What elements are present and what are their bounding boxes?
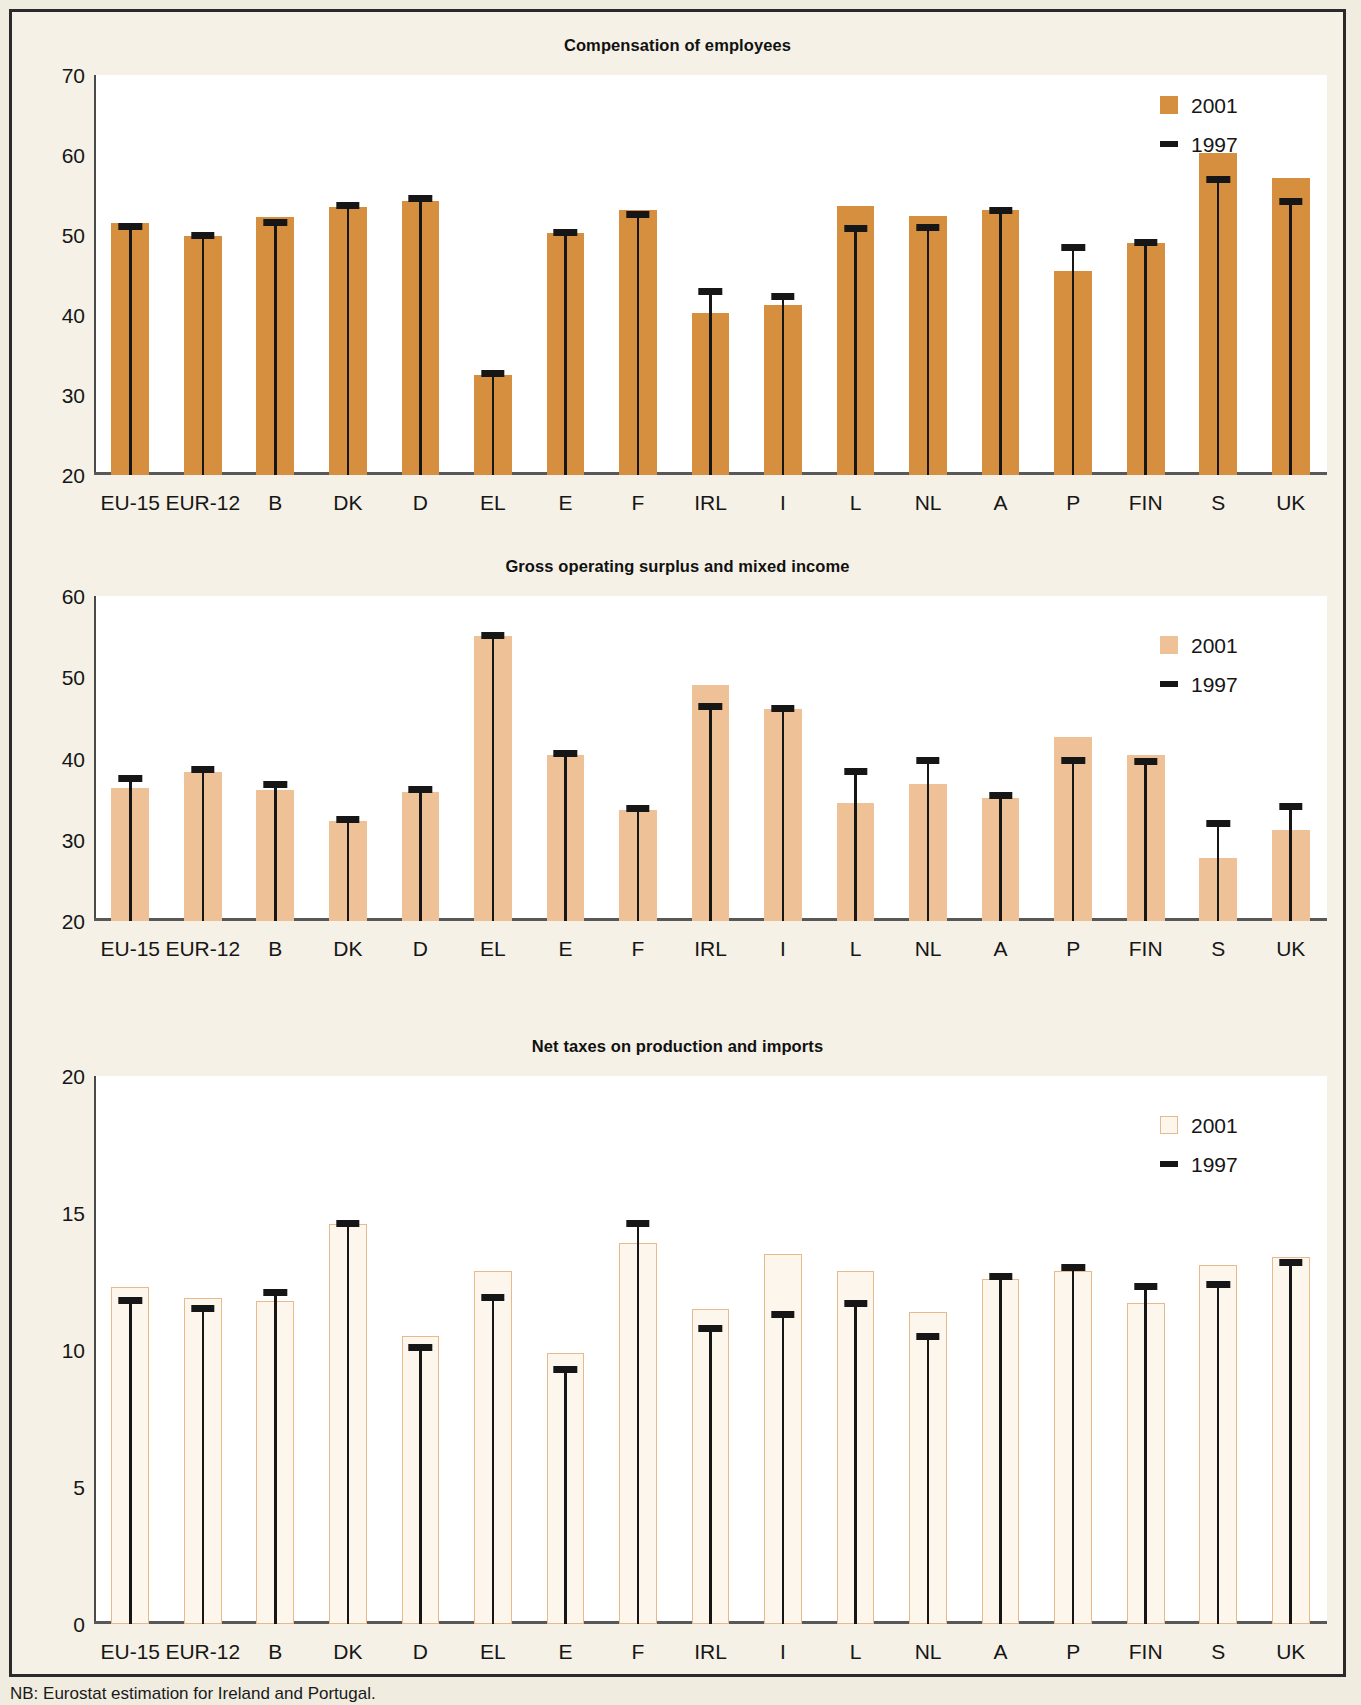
dash-marker-icon xyxy=(1160,681,1178,687)
x-axis-tick-label: L xyxy=(850,492,862,513)
bar-group xyxy=(329,596,367,921)
plot-area: 05101520 xyxy=(94,1076,1327,1624)
x-axis-tick-label: DK xyxy=(333,492,362,513)
legend-label-1997: 1997 xyxy=(1191,134,1238,155)
marker-1997 xyxy=(191,232,214,239)
bar-group xyxy=(547,75,585,475)
x-axis-tick-label: UK xyxy=(1276,938,1305,959)
x-axis-tick-label: F xyxy=(632,492,645,513)
marker-stem-1997 xyxy=(927,228,930,475)
x-axis-tick-label: S xyxy=(1211,1641,1225,1662)
marker-stem-1997 xyxy=(492,373,495,475)
figure-frame: Compensation of employees 203040506070 E… xyxy=(9,9,1346,1677)
marker-stem-1997 xyxy=(419,1347,422,1624)
x-axis-tick-label: P xyxy=(1066,938,1080,959)
marker-1997 xyxy=(771,293,794,300)
marker-stem-1997 xyxy=(854,772,857,922)
marker-stem-1997 xyxy=(637,214,640,475)
marker-1997 xyxy=(1061,244,1084,251)
x-axis-tick-label: EL xyxy=(480,492,506,513)
bar-group xyxy=(111,1076,149,1624)
figure-page: Compensation of employees 203040506070 E… xyxy=(0,0,1361,1705)
marker-stem-1997 xyxy=(564,233,567,475)
x-axis-tick-label: FIN xyxy=(1129,492,1163,513)
y-axis-tick-label: 5 xyxy=(73,1477,85,1498)
chart-title: Compensation of employees xyxy=(12,36,1343,55)
chart-legend: 2001 1997 xyxy=(1160,630,1238,708)
marker-stem-1997 xyxy=(419,198,422,475)
legend-item-1997: 1997 xyxy=(1160,129,1238,159)
chart-panel-net-taxes: Net taxes on production and imports 0510… xyxy=(12,1013,1343,1673)
x-axis-tick-label: DK xyxy=(333,1641,362,1662)
marker-1997 xyxy=(264,781,287,788)
bar-group xyxy=(692,75,730,475)
bar-group xyxy=(837,75,875,475)
x-axis-tick-label: L xyxy=(850,1641,862,1662)
marker-stem-1997 xyxy=(564,754,567,921)
marker-1997 xyxy=(119,223,142,230)
x-axis-tick-label: EU-15 xyxy=(100,938,160,959)
bar-group xyxy=(1272,1076,1310,1624)
bar-group xyxy=(256,1076,294,1624)
marker-1997 xyxy=(699,288,722,295)
marker-1997 xyxy=(409,786,432,793)
marker-1997 xyxy=(336,1220,359,1227)
bar-group xyxy=(1272,75,1310,475)
bar-group xyxy=(619,1076,657,1624)
marker-stem-1997 xyxy=(492,1298,495,1624)
legend-item-2001: 2001 xyxy=(1160,1110,1238,1140)
x-axis-tick-label: EUR-12 xyxy=(165,492,240,513)
bar-group xyxy=(1054,75,1092,475)
chart-legend: 2001 1997 xyxy=(1160,90,1238,168)
marker-stem-1997 xyxy=(564,1369,567,1624)
bar-group xyxy=(184,75,222,475)
bar-group xyxy=(1054,596,1092,921)
marker-stem-1997 xyxy=(709,1328,712,1624)
x-axis-tick-label: L xyxy=(850,938,862,959)
marker-stem-1997 xyxy=(927,761,930,921)
x-axis-tick-label: EL xyxy=(480,938,506,959)
marker-stem-1997 xyxy=(1144,762,1147,921)
square-swatch-icon xyxy=(1160,636,1178,654)
marker-stem-1997 xyxy=(1217,824,1220,922)
plot-area: 2030405060 xyxy=(94,596,1327,921)
marker-1997 xyxy=(119,775,142,782)
marker-1997 xyxy=(989,207,1012,214)
chart-panel-gross-operating-surplus: Gross operating surplus and mixed income… xyxy=(12,533,1343,1013)
bar-group xyxy=(329,1076,367,1624)
x-axis-tick-label: EU-15 xyxy=(100,492,160,513)
marker-1997 xyxy=(409,195,432,202)
marker-stem-1997 xyxy=(709,707,712,922)
marker-1997 xyxy=(1207,1281,1230,1288)
x-axis-tick-label: I xyxy=(780,938,786,959)
bar-group xyxy=(329,75,367,475)
x-axis-tick-label: NL xyxy=(915,1641,942,1662)
marker-stem-1997 xyxy=(709,291,712,475)
y-axis-tick-label: 60 xyxy=(62,145,85,166)
marker-stem-1997 xyxy=(274,222,277,475)
bar-group xyxy=(111,596,149,921)
marker-1997 xyxy=(771,705,794,712)
marker-1997 xyxy=(626,805,649,812)
x-axis-tick-label: IRL xyxy=(694,492,727,513)
chart-title: Net taxes on production and imports xyxy=(12,1037,1343,1056)
marker-stem-1997 xyxy=(129,1301,132,1624)
marker-1997 xyxy=(1279,803,1302,810)
bar-group xyxy=(619,596,657,921)
legend-item-2001: 2001 xyxy=(1160,90,1238,120)
x-axis-tick-label: NL xyxy=(915,492,942,513)
marker-1997 xyxy=(264,219,287,226)
bar-group xyxy=(402,1076,440,1624)
bar-group xyxy=(982,596,1020,921)
marker-1997 xyxy=(481,370,504,377)
bar-series-container xyxy=(94,596,1327,921)
marker-stem-1997 xyxy=(1072,247,1075,475)
marker-1997 xyxy=(481,632,504,639)
bar-series-container xyxy=(94,1076,1327,1624)
y-axis-tick-label: 20 xyxy=(62,1066,85,1087)
bar-group xyxy=(547,596,585,921)
marker-stem-1997 xyxy=(274,1292,277,1624)
x-axis-tick-label: I xyxy=(780,1641,786,1662)
bar-group xyxy=(619,75,657,475)
marker-1997 xyxy=(1207,176,1230,183)
